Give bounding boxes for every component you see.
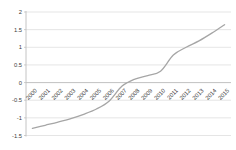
x-axis-tick-label: 2001 xyxy=(38,88,51,101)
x-axis-tick-label: 2007 xyxy=(114,88,127,101)
y-axis-tick-label: 1.5 xyxy=(14,27,22,33)
y-axis-tick-label: 0.5 xyxy=(14,62,22,68)
y-axis-tick-label: -0.5 xyxy=(12,97,22,103)
x-axis-tick-label: 2002 xyxy=(50,88,63,101)
y-axis-tick-label: 1 xyxy=(19,44,22,50)
x-axis-tick-label: 2000 xyxy=(25,88,38,101)
y-axis-tick-label: -1 xyxy=(17,115,22,121)
x-axis-tick-label: 2004 xyxy=(76,87,90,101)
x-axis-tick-label: 2013 xyxy=(191,88,204,101)
x-axis-tick-label: 2008 xyxy=(127,88,140,101)
x-axis-tick-label: 2009 xyxy=(140,88,153,101)
series-line xyxy=(32,25,224,129)
y-axis-tick-label: -1.5 xyxy=(12,133,22,139)
x-axis-tick-label: 2015 xyxy=(217,88,230,101)
x-axis-tick-label: 2010 xyxy=(153,88,166,101)
y-axis-tick-label: 2 xyxy=(19,9,22,15)
x-axis-tick-label: 2012 xyxy=(178,88,191,101)
chart-canvas: 21.510.50-0.5-1-1.5200020012002200320042… xyxy=(0,0,236,150)
x-axis-tick-label: 2014 xyxy=(204,87,218,101)
y-axis-tick-label: 0 xyxy=(19,80,22,86)
x-axis-tick-label: 2011 xyxy=(166,88,179,101)
x-axis-tick-label: 2005 xyxy=(89,88,102,101)
x-axis-tick-label: 2006 xyxy=(102,88,115,101)
line-chart: 21.510.50-0.5-1-1.5200020012002200320042… xyxy=(0,0,236,150)
x-axis-tick-label: 2003 xyxy=(63,88,76,101)
